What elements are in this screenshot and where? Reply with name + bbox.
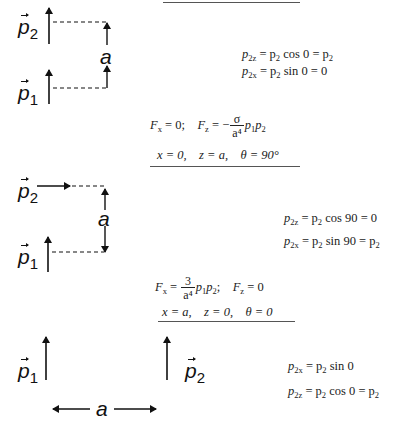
func: cos 90 = 0 bbox=[322, 211, 377, 225]
case3-eq-p2x: p2x = p2 sin 0 bbox=[288, 360, 354, 375]
case2-eq-p2x: p2x = p2 sin 90 = p2 bbox=[284, 235, 380, 250]
subscript: 2 bbox=[30, 25, 38, 42]
case1-divider bbox=[150, 166, 300, 167]
case3-eq-p2z: p2z = p2 cos 0 = p2 bbox=[288, 385, 379, 400]
case1-force-eq: Fx = 0; Fz = −σa⁴p1p2 bbox=[150, 113, 266, 140]
case2-diagram bbox=[37, 186, 105, 272]
op: = 0; bbox=[162, 118, 185, 132]
op: = − bbox=[209, 118, 229, 132]
p2-label: p2 bbox=[18, 16, 38, 41]
p1-label: p1 bbox=[18, 246, 38, 271]
subscript: 1 bbox=[30, 369, 38, 386]
sub: 2x bbox=[294, 365, 303, 375]
op: = p bbox=[298, 211, 318, 225]
fraction: σa⁴ bbox=[230, 113, 244, 140]
case1-eq-p2z: p2z = p2 cos 0 = p2 bbox=[242, 48, 333, 63]
a-label: a bbox=[100, 46, 112, 67]
numerator: σ bbox=[230, 113, 244, 125]
sub: 2 bbox=[375, 240, 379, 250]
numerator: 3 bbox=[181, 275, 195, 287]
subscript: 1 bbox=[30, 255, 38, 272]
case1-diagram bbox=[49, 8, 107, 104]
vector-p: p bbox=[185, 360, 197, 381]
subscript: 1 bbox=[30, 91, 38, 108]
func: sin 0 bbox=[327, 359, 354, 373]
func: sin 0 = 0 bbox=[281, 64, 328, 78]
op: = p bbox=[256, 47, 276, 61]
sub: 2 bbox=[329, 53, 333, 63]
vector-p: p bbox=[18, 246, 30, 267]
op: = p bbox=[302, 384, 322, 398]
fraction: 3a⁴ bbox=[181, 275, 195, 302]
subscript: 2 bbox=[30, 189, 38, 206]
denominator: a⁴ bbox=[230, 125, 244, 140]
p1-label: p1 bbox=[18, 360, 38, 385]
subscript: 2 bbox=[197, 369, 205, 386]
a-label: a bbox=[96, 398, 108, 419]
op: = p bbox=[303, 359, 323, 373]
func: sin 90 = p bbox=[323, 234, 376, 248]
sub: 2x bbox=[290, 240, 299, 250]
p2-label: p2 bbox=[18, 180, 38, 205]
op: = p bbox=[257, 64, 277, 78]
case2-force-eq: Fx = 3a⁴p1p2; Fz = 0 bbox=[155, 275, 264, 302]
p2-label: p2 bbox=[185, 360, 205, 385]
op: ; bbox=[217, 280, 220, 294]
case2-coords: x = a, z = 0, θ = 0 bbox=[162, 306, 273, 319]
vector-p: p bbox=[18, 82, 30, 103]
func: cos 0 = p bbox=[280, 47, 329, 61]
case1-eq-p2x: p2x = p2 sin 0 = 0 bbox=[242, 65, 327, 80]
case2-divider bbox=[158, 321, 295, 322]
sub: 2 bbox=[261, 124, 265, 134]
sym: F bbox=[150, 118, 158, 132]
case2-eq-p2z: p2z = p2 cos 90 = 0 bbox=[284, 212, 377, 227]
op: = p bbox=[299, 234, 319, 248]
vector-p: p bbox=[18, 16, 30, 37]
sub: 2 bbox=[375, 390, 379, 400]
case1-coords: x = 0, z = a, θ = 90° bbox=[157, 149, 279, 162]
vector-p: p bbox=[18, 180, 30, 201]
sub: 2x bbox=[248, 70, 257, 80]
op: = 0 bbox=[244, 280, 264, 294]
a-label: a bbox=[98, 208, 110, 229]
vector-p: p bbox=[18, 360, 30, 381]
p1-label: p1 bbox=[18, 82, 38, 107]
func: cos 0 = p bbox=[326, 384, 375, 398]
op: = bbox=[167, 280, 180, 294]
sym: F bbox=[197, 118, 205, 132]
denominator: a⁴ bbox=[181, 287, 195, 302]
sym: F bbox=[155, 280, 163, 294]
